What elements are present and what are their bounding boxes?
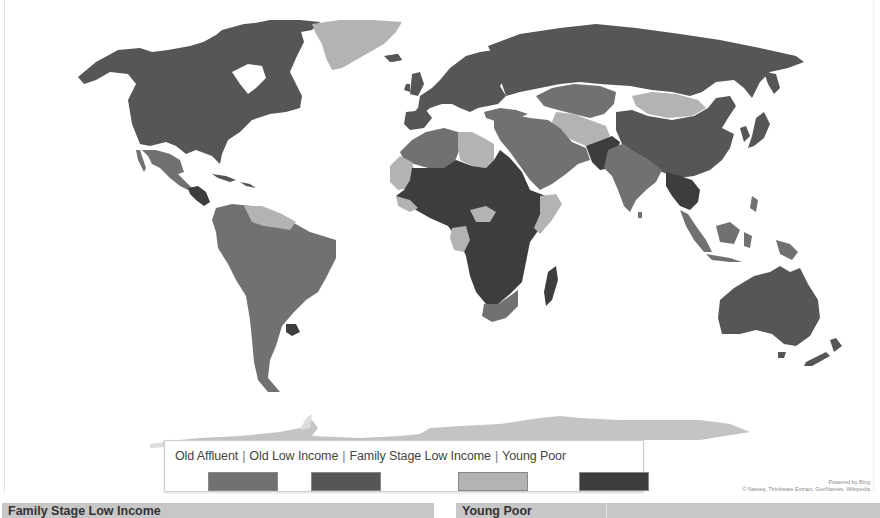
powered-by-bing: Powered by Bing (828, 479, 870, 485)
region-madagascar[interactable] (544, 266, 558, 306)
region-australia[interactable] (718, 266, 820, 346)
legend: Old Affluent|Old Low Income|Family Stage… (164, 440, 644, 492)
legend-swatch-old-low-income (311, 472, 381, 491)
legend-separator: | (491, 449, 502, 463)
legend-label-old-affluent: Old Affluent (175, 449, 238, 463)
legend-swatch-young-poor (579, 472, 649, 491)
legend-labels: Old Affluent|Old Low Income|Family Stage… (175, 449, 566, 463)
region-kazakhstan[interactable] (536, 84, 616, 118)
region-greenland[interactable] (312, 20, 402, 70)
legend-label-young-poor: Young Poor (502, 449, 566, 463)
world-choropleth-map[interactable] (0, 0, 880, 492)
panel-young-poor: Young Poor (456, 503, 880, 518)
region-caribbean (212, 174, 256, 188)
region-mexico[interactable] (142, 150, 196, 192)
map-view[interactable]: Old Affluent|Old Low Income|Family Stage… (0, 0, 880, 492)
region-central-america[interactable] (188, 186, 210, 206)
panel-divider (606, 503, 607, 518)
region-mongolia[interactable] (632, 92, 706, 118)
region-north-america[interactable] (78, 22, 304, 164)
region-uruguay[interactable] (286, 324, 300, 336)
legend-separator: | (338, 449, 349, 463)
panel-title: Young Poor (462, 504, 532, 518)
legend-swatch-old-affluent (208, 472, 278, 491)
region-libya[interactable] (458, 132, 494, 168)
legend-swatch-family-stage-low-income (458, 472, 528, 491)
panel-gap (434, 503, 456, 518)
region-indochina[interactable] (666, 172, 700, 210)
region-indonesia[interactable] (680, 210, 798, 262)
legend-separator: | (238, 449, 249, 463)
panel-family-stage-low-income: Family Stage Low Income (2, 503, 434, 518)
legend-label-old-low-income: Old Low Income (249, 449, 338, 463)
region-russia[interactable] (488, 24, 804, 98)
region-south-america[interactable] (212, 204, 336, 392)
region-new-zealand[interactable] (804, 338, 842, 366)
legend-label-family-stage-low-income: Family Stage Low Income (349, 449, 491, 463)
panel-title: Family Stage Low Income (8, 504, 161, 518)
map-credits: © Navteq, Thinkware Extract, GeoNames, W… (742, 486, 870, 492)
